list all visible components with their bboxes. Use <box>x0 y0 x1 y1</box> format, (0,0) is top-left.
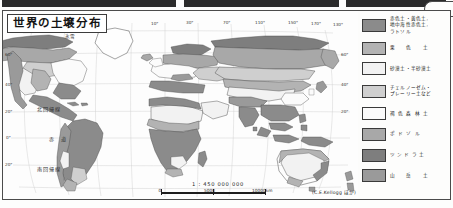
longitude-label: 170° <box>311 21 321 26</box>
legend-swatch <box>362 149 386 162</box>
longitude-label: 30° <box>186 20 193 25</box>
longitude-label: 70° <box>223 20 230 25</box>
legend-item-tundra-soil[interactable]: ツンドラ土 <box>362 146 450 165</box>
legend-label: ポドゾル <box>390 131 423 137</box>
legend-label: 砂漠土・半砂漠土 <box>390 66 432 72</box>
legend-item-mountain-soil[interactable]: 山 岳 土 <box>362 166 450 185</box>
latitude-label: 0° <box>6 135 11 140</box>
scale-tick-label: 5000 <box>204 188 215 193</box>
source-credit: (C.E.Kellogg ほか) <box>312 189 356 195</box>
page-top-text-bars <box>0 0 453 9</box>
longitude-label: 150° <box>288 20 298 25</box>
legend-swatch <box>362 107 386 120</box>
scale-ratio-text: 1 : 450 000 000 <box>155 181 273 187</box>
longitude-label: 130° <box>333 22 343 27</box>
latitude-label: 60° <box>341 52 348 57</box>
legend-swatch <box>362 128 386 141</box>
legend-item-desert-soil[interactable]: 砂漠土・半砂漠土 <box>362 59 450 78</box>
legend-item-red-yellow-soil[interactable]: 赤色土・黄色土, 地中海性赤色土, ラトソル <box>362 14 450 37</box>
legend-item-brown-forest-soil[interactable]: 褐色森林土 <box>362 104 450 123</box>
map-legend: 赤色土・黄色土, 地中海性赤色土, ラトソル 栗 色 土 砂漠土・半砂漠土 チェ… <box>360 11 451 199</box>
map-scale: 1 : 450 000 000 0 5000 10000km <box>155 181 273 197</box>
legend-label: 褐色森林土 <box>390 111 431 117</box>
legend-item-podzol[interactable]: ポドゾル <box>362 125 450 144</box>
map-figure-frame: 世界の土壌分布 氷雪 北回帰線 赤 道 南回帰線 170° 130° 10° 3… <box>2 10 451 200</box>
map-label-equator: 赤 道 <box>49 135 67 142</box>
legend-label: 栗 色 土 <box>390 45 431 51</box>
legend-label: 赤色土・黄色土, 地中海性赤色土, ラトソル <box>390 16 428 35</box>
legend-label: ツンドラ土 <box>390 152 426 158</box>
latitude-label: 20° <box>5 109 12 114</box>
legend-swatch <box>362 19 386 32</box>
figure-page: 世界の土壌分布 氷雪 北回帰線 赤 道 南回帰線 170° 130° 10° 3… <box>0 0 453 208</box>
legend-label: チェルノーゼム・ プレーリー土など <box>390 85 432 97</box>
legend-swatch <box>362 85 386 98</box>
scale-tick-label: 10000km <box>252 188 272 193</box>
latitude-label: 40° <box>5 82 12 87</box>
longitude-label: 10° <box>151 21 158 26</box>
legend-label: 山 岳 土 <box>390 173 431 179</box>
latitude-label: 20° <box>5 162 12 167</box>
figure-title: 世界の土壌分布 <box>7 14 107 33</box>
text-bar <box>184 0 339 7</box>
latitude-label: 40° <box>341 82 348 87</box>
longitude-label: 110° <box>255 20 265 25</box>
legend-swatch <box>362 42 386 55</box>
scale-bar: 0 5000 10000km <box>155 188 273 197</box>
latitude-label: 60° <box>5 52 12 57</box>
map-label-ice-snow: 氷雪 <box>65 33 76 39</box>
world-map: 世界の土壌分布 氷雪 北回帰線 赤 道 南回帰線 170° 130° 10° 3… <box>3 11 358 199</box>
text-bar <box>2 0 176 7</box>
legend-swatch <box>362 169 386 182</box>
legend-swatch <box>362 62 386 75</box>
scale-tick-label: 0 <box>159 188 162 193</box>
latitude-label: 20° <box>341 109 348 114</box>
map-label-tropic-of-capricorn: 南回帰線 <box>37 165 61 172</box>
map-label-tropic-of-cancer: 北回帰線 <box>37 105 61 112</box>
legend-item-chernozem-prairie[interactable]: チェルノーゼム・ プレーリー土など <box>362 80 450 103</box>
legend-item-chestnut-soil[interactable]: 栗 色 土 <box>362 39 450 58</box>
